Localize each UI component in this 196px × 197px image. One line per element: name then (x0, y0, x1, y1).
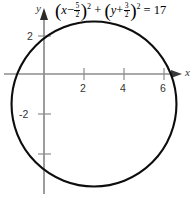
circle-graph-figure: (x−52)2 + (y+32)2 = 17 y x 2 4 6 2 -2 (0, 0, 196, 197)
equation-minus-sign: − (67, 3, 74, 17)
equation-label: (x−52)2 + (y+32)2 = 17 (55, 1, 166, 20)
equation-right-hand-side: 17 (154, 3, 167, 17)
equation-exponent-2: 2 (136, 3, 140, 11)
equation-exponent-1: 2 (87, 3, 91, 11)
y-tick-label-minus-2: -2 (19, 108, 28, 120)
circle-curve (12, 22, 177, 187)
x-tick-label-6: 6 (160, 82, 166, 94)
equation-inner-plus-sign: + (116, 3, 123, 17)
equation-fraction-five-halves: 52 (74, 2, 80, 18)
equation-plus-sign: + (94, 3, 101, 17)
equation-fraction-three-halves: 32 (124, 2, 130, 18)
y-axis-arrow-icon (40, 8, 48, 20)
fraction-denominator-2: 2 (74, 10, 80, 19)
equation-equals-sign: = (144, 3, 151, 17)
fraction-numerator-5: 5 (74, 2, 80, 10)
y-axis-label: y (36, 2, 41, 14)
x-axis-label: x (185, 66, 190, 78)
x-tick-label-2: 2 (80, 82, 86, 94)
y-tick-label-2: 2 (27, 30, 33, 42)
fraction-denominator-2b: 2 (124, 10, 130, 19)
x-tick-label-4: 4 (120, 82, 126, 94)
fraction-numerator-3: 3 (124, 2, 130, 10)
